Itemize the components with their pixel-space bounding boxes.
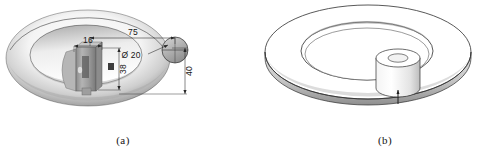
dim-40-label: 40 [184,66,194,76]
part-bottom-tab [82,88,91,95]
caption-a: (a) [0,134,248,146]
dim-16-label: 16 [83,35,93,45]
center-boss-b [376,49,420,97]
boss-center-bore [388,54,408,62]
caption-b: (b) [260,134,500,146]
dim-38-label: 38 [118,64,128,74]
figure-panel-b: (b) [250,0,500,148]
disc-solid-b [265,5,471,105]
dim-40-arrow-bottom [183,90,186,94]
dim-75-label: 75 [128,27,138,37]
dim-d20-label: Ø 20 [121,50,140,60]
part-slot [82,56,89,78]
figure-root: 75 16 Ø 20 [0,0,500,148]
panel-a-drawing: 75 16 Ø 20 [0,0,250,128]
part-marker-square [108,63,114,70]
figure-panel-a: 75 16 Ø 20 [0,0,250,148]
panel-b-drawing [250,0,500,128]
part-right-face [96,42,102,91]
part-highlight [78,67,82,73]
